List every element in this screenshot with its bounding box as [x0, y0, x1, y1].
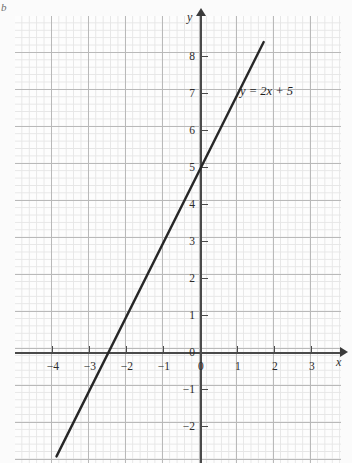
- plot-area: [0, 0, 352, 463]
- graph-figure: b x y −4−3−2−10123876543210−1−2 y = 2x +…: [0, 0, 352, 463]
- equation-annotation: y = 2x + 5: [240, 85, 293, 98]
- line-series-y-2x-5: [57, 42, 264, 456]
